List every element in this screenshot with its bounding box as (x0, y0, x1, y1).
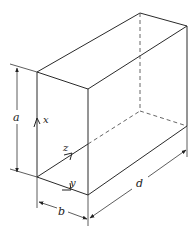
dimension-b: b (37, 177, 88, 226)
dimension-a: a (10, 64, 37, 177)
y-axis-label: y (69, 177, 76, 188)
box-visible-edges (37, 13, 187, 195)
box-diagram: a b d x z y (0, 0, 196, 239)
dimension-b-label: b (58, 205, 65, 218)
z-axis-label: z (62, 142, 69, 153)
dimension-d-label: d (136, 177, 143, 190)
box-hidden-edges (88, 13, 187, 144)
dimension-d: d (90, 126, 187, 218)
x-axis-label: x (43, 114, 49, 125)
dimension-a-label: a (13, 111, 20, 124)
